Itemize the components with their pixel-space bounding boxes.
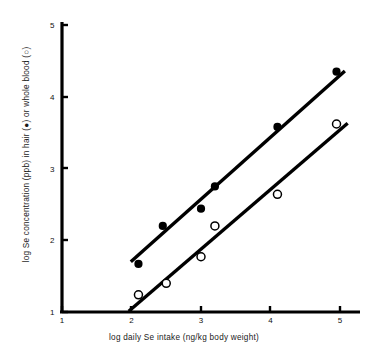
y-tick-label: 2 [50, 236, 54, 245]
y-tick-label: 5 [50, 21, 54, 30]
data-point-whole-blood [211, 222, 219, 230]
regression-lines [129, 71, 348, 311]
data-point-whole-blood [162, 279, 170, 287]
data-point-whole-blood [333, 120, 341, 128]
y-tick-label: 1 [50, 308, 54, 317]
data-point-whole-blood [273, 190, 281, 198]
plot-canvas [0, 0, 368, 353]
data-point-hair [159, 222, 167, 230]
x-tick-label: 4 [268, 316, 272, 325]
axes [60, 22, 360, 313]
x-tick-label: 2 [129, 316, 133, 325]
x-tick-label: 5 [338, 316, 342, 325]
x-tick-label: 1 [60, 316, 64, 325]
chart-figure: log Se concentration (ppb) in hair (●) o… [0, 0, 368, 353]
regression-line-hair [131, 71, 345, 262]
data-point-hair [332, 68, 340, 76]
data-point-hair [197, 205, 205, 213]
data-point-whole-blood [197, 253, 205, 261]
y-tick-label: 4 [50, 92, 54, 101]
data-point-hair [211, 182, 219, 190]
data-point-hair [273, 123, 281, 131]
y-tick-label: 3 [50, 164, 54, 173]
x-tick-label: 3 [199, 316, 203, 325]
data-point-hair [134, 260, 142, 268]
data-point-whole-blood [134, 291, 142, 299]
